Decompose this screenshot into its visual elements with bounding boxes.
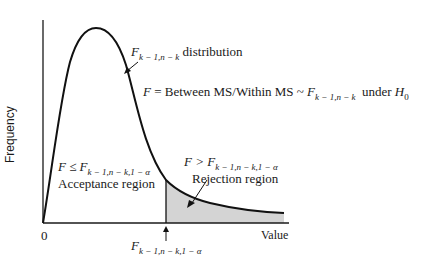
acceptance-condition: F ≤ Fk − 1,n − k,1 − α — [58, 160, 150, 173]
critical-value-symbol: F — [131, 238, 139, 253]
statistic-dist-symbol: F — [307, 84, 315, 99]
y-axis-label: Frequency — [3, 106, 17, 163]
statistic-equals: = — [154, 84, 161, 99]
acceptance-condition-lhs: F ≤ — [58, 159, 80, 174]
critical-value-subscript: k − 1,n − k,1 − α — [139, 246, 201, 256]
statistic-label: F = Between MS/Within MS ~ Fk − 1,n − k … — [143, 85, 409, 98]
curve-label-symbol: F — [131, 44, 139, 59]
curve-label-text: distribution — [183, 44, 243, 59]
critical-value-label: Fk − 1,n − k,1 − α — [131, 239, 201, 252]
statistic-under: under — [362, 84, 392, 99]
statistic-ratio: Between MS/Within MS — [165, 84, 294, 99]
x-axis-label: Value — [261, 229, 288, 241]
rejection-condition-symbol: F — [207, 154, 215, 169]
rejection-region-label: Rejection region — [192, 172, 278, 185]
rejection-condition: F > Fk − 1,n − k,1 − α — [184, 155, 278, 168]
statistic-lhs: F — [143, 84, 151, 99]
rejection-region-fill — [166, 180, 284, 223]
origin-label: 0 — [41, 229, 48, 242]
rejection-condition-lhs: F > — [184, 154, 207, 169]
f-distribution-plot — [0, 0, 425, 261]
curve-label: Fk − 1,n − k distribution — [131, 45, 243, 58]
acceptance-condition-symbol: F — [80, 159, 88, 174]
statistic-dist-subscript: k − 1,n − k — [315, 92, 355, 102]
acceptance-region-label: Acceptance region — [58, 177, 155, 190]
statistic-hypothesis: H — [395, 84, 404, 99]
statistic-hypothesis-subscript: 0 — [404, 92, 409, 102]
curve-label-subscript: k − 1,n − k — [139, 52, 179, 62]
statistic-tilde: ~ — [297, 84, 304, 99]
critical-value-arrowhead-icon — [163, 226, 169, 232]
